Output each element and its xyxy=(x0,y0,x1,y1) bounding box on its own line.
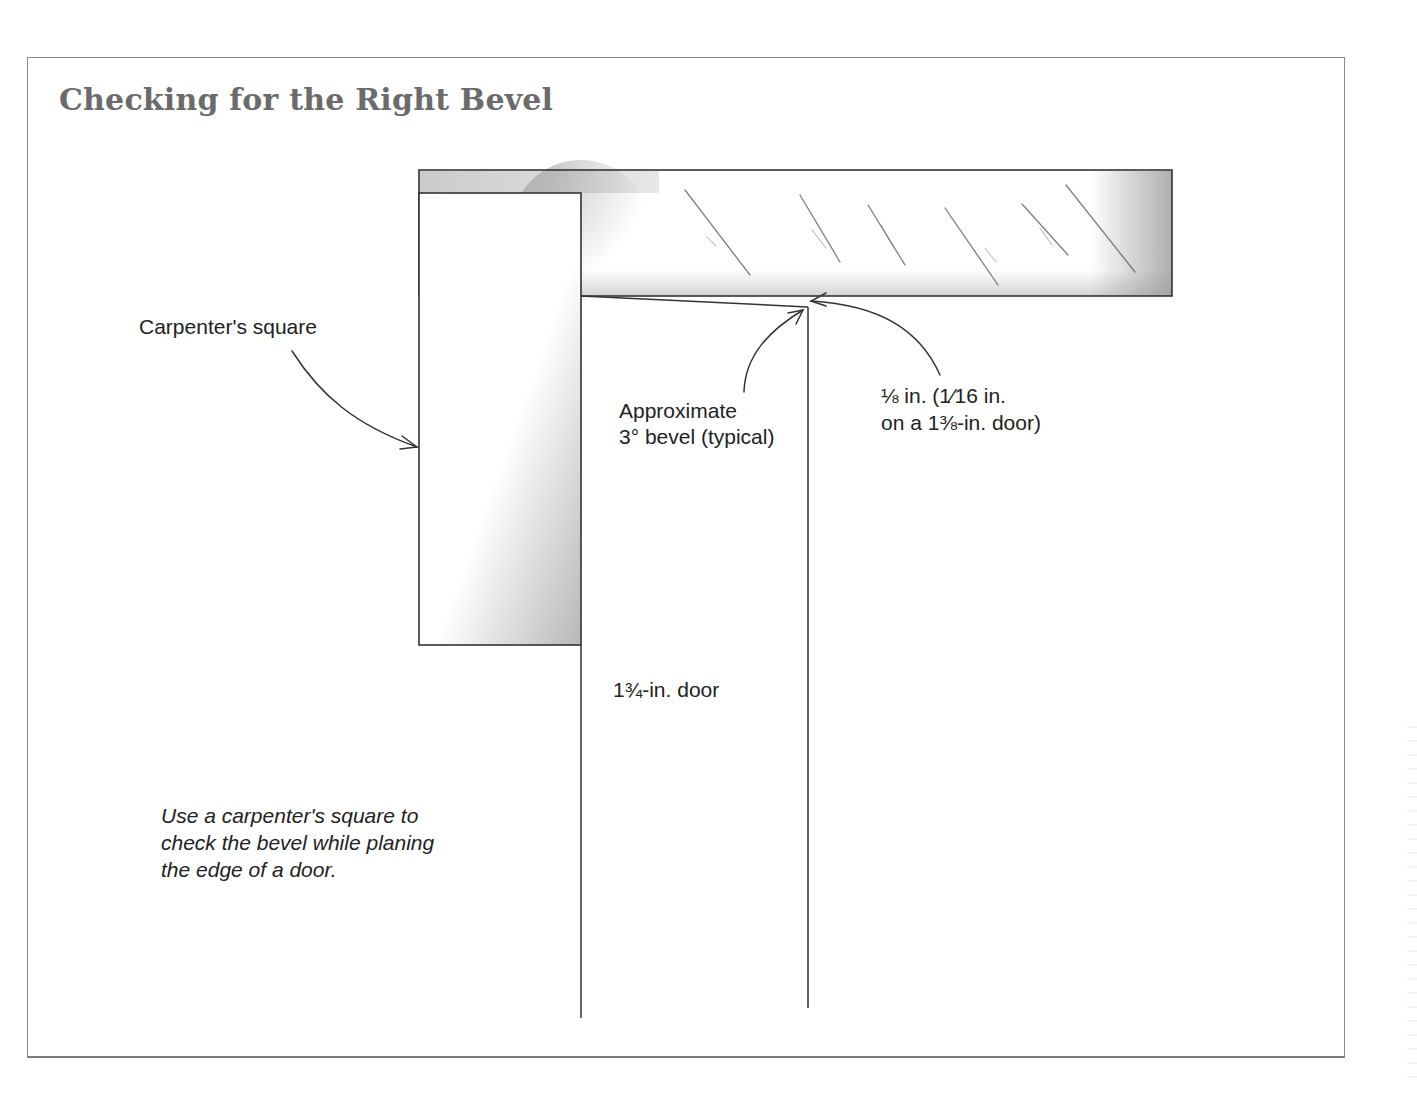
caption-line-2: check the bevel while planing xyxy=(161,829,434,856)
label-door-thickness: 1¾-in. door xyxy=(613,677,719,703)
label-offset-line1: ⅛ in. (1⁄16 in. xyxy=(881,383,1006,409)
bevel-diagram xyxy=(0,0,1417,1098)
square-stock xyxy=(419,193,581,645)
figure-caption: Use a carpenter's square to check the be… xyxy=(161,802,434,883)
leader-arrows xyxy=(292,293,940,449)
label-bevel-line1: Approximate xyxy=(619,398,737,424)
caption-line-1: Use a carpenter's square to xyxy=(161,802,434,829)
label-offset-line2: on a 1⅜-in. door) xyxy=(881,410,1041,436)
label-carpenters-square: Carpenter's square xyxy=(139,314,317,340)
label-bevel-line2: 3° bevel (typical) xyxy=(619,424,774,450)
caption-line-3: the edge of a door. xyxy=(161,856,434,883)
page-edge-texture xyxy=(1407,720,1417,1080)
